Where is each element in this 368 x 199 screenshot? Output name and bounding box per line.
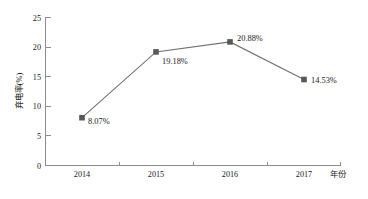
x-tick-label-2015: 2015 [148, 170, 164, 179]
data-point-2015 [153, 49, 159, 55]
x-tick-label-2016: 2016 [222, 170, 238, 179]
x-axis-title: 年份 [330, 169, 347, 179]
y-axis-title: 弃电率(%) [14, 73, 24, 110]
y-tick-label-5: 5 [37, 132, 41, 141]
y-tick-label-15: 15 [33, 73, 41, 82]
data-label-2016: 20.88% [237, 34, 263, 43]
data-point-2017 [301, 77, 307, 83]
x-tick-label-2014: 2014 [74, 170, 90, 179]
line-chart: 25 20 15 10 5 0 2014 2015 2016 2017 弃电率(… [0, 0, 368, 199]
y-tick-label-20: 20 [33, 43, 41, 52]
data-point-2014 [79, 115, 85, 121]
data-label-2014: 8.07% [88, 117, 110, 126]
x-tick-label-2017: 2017 [296, 170, 312, 179]
chart-canvas: 25 20 15 10 5 0 2014 2015 2016 2017 弃电率(… [0, 0, 368, 199]
data-label-2015: 19.18% [162, 57, 188, 66]
data-label-2017: 14.53% [311, 76, 337, 85]
y-tick-label-10: 10 [33, 102, 41, 111]
chart-background [0, 0, 368, 199]
y-tick-label-25: 25 [33, 14, 41, 23]
data-point-2016 [227, 39, 233, 45]
y-tick-label-0: 0 [37, 162, 41, 171]
